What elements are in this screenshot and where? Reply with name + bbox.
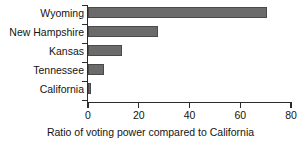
x-axis-tick — [87, 103, 88, 108]
x-axis-tick — [240, 103, 241, 108]
y-axis-tick — [82, 24, 87, 25]
x-axis-tick — [138, 103, 139, 108]
x-axis-tick — [189, 103, 190, 108]
x-axis-tick — [290, 103, 291, 108]
y-axis-label-kansas: Kansas — [0, 46, 84, 57]
y-axis-category-labels: Wyoming New Hampshire Kansas Tennessee C… — [0, 6, 84, 102]
y-axis-tick — [82, 100, 87, 101]
y-axis-label-california: California — [0, 84, 84, 95]
y-axis-label-wyoming: Wyoming — [0, 8, 84, 19]
bar-wyoming — [88, 7, 267, 18]
bar-chart: Wyoming New Hampshire Kansas Tennessee C… — [0, 0, 301, 146]
y-axis-label-tennessee: Tennessee — [0, 65, 84, 76]
y-axis-tick — [82, 43, 87, 44]
y-axis-tick — [82, 5, 87, 6]
x-axis-title: Ratio of voting power compared to Califo… — [0, 126, 301, 139]
y-axis-tick — [82, 62, 87, 63]
bar-kansas — [88, 45, 122, 56]
plot-area — [88, 6, 291, 102]
x-axis-tick-label: 0 — [73, 109, 103, 121]
y-axis-tick — [82, 81, 87, 82]
x-axis-tick-label: 40 — [175, 109, 205, 121]
bar-new-hampshire — [88, 26, 158, 37]
bar-tennessee — [88, 64, 104, 75]
x-axis-tick-label: 80 — [276, 109, 301, 121]
x-axis-tick-label: 60 — [225, 109, 255, 121]
y-axis-line — [87, 5, 88, 103]
y-axis-label-new-hampshire: New Hampshire — [0, 27, 84, 38]
x-axis-tick-label: 20 — [124, 109, 154, 121]
